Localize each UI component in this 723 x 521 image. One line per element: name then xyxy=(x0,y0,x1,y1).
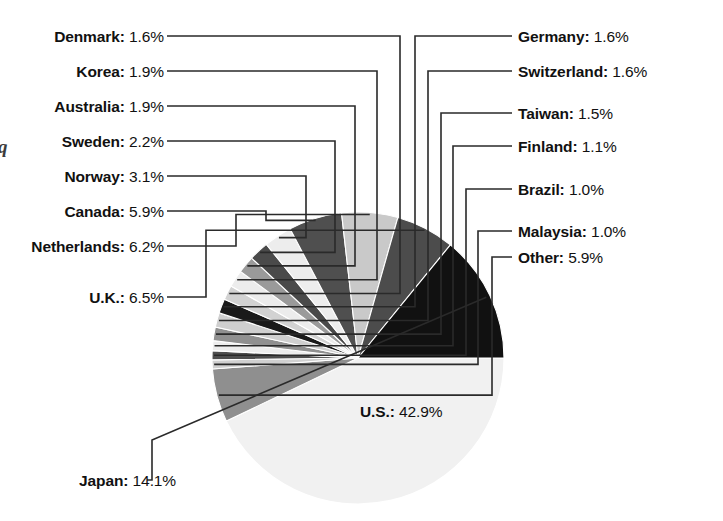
label-korea-value: 1.9% xyxy=(129,63,164,80)
label-taiwan-name: Taiwan xyxy=(518,105,569,122)
label-denmark-name: Denmark xyxy=(54,28,120,45)
label-norway: Norway: 3.1% xyxy=(64,169,164,185)
label-other: Other: 5.9% xyxy=(518,250,603,266)
label-germany-value: 1.6% xyxy=(594,28,629,45)
label-uk: U.K.: 6.5% xyxy=(89,290,164,306)
label-finland: Finland: 1.1% xyxy=(518,139,617,155)
label-australia-value: 1.9% xyxy=(129,98,164,115)
label-sweden-value: 2.2% xyxy=(129,133,164,150)
label-denmark-value: 1.6% xyxy=(129,28,164,45)
pie-slices-group xyxy=(212,212,504,504)
label-norway-value: 3.1% xyxy=(129,168,164,185)
label-other-name: Other xyxy=(518,249,559,266)
label-denmark: Denmark: 1.6% xyxy=(54,29,164,45)
label-australia-name: Australia xyxy=(54,98,119,115)
label-japan-name: Japan xyxy=(79,472,123,489)
label-other-value: 5.9% xyxy=(568,249,603,266)
label-netherlands-name: Netherlands xyxy=(31,238,119,255)
label-brazil: Brazil: 1.0% xyxy=(518,182,604,198)
label-norway-name: Norway xyxy=(64,168,119,185)
label-uk-name: U.K. xyxy=(89,289,120,306)
label-finland-value: 1.1% xyxy=(582,138,617,155)
label-germany: Germany: 1.6% xyxy=(518,29,629,45)
label-canada-value: 5.9% xyxy=(129,203,164,220)
label-sweden: Sweden: 2.2% xyxy=(62,134,164,150)
label-netherlands-value: 6.2% xyxy=(129,238,164,255)
label-canada: Canada: 5.9% xyxy=(64,204,164,220)
label-us-value: 42.9% xyxy=(399,403,442,420)
label-uk-value: 6.5% xyxy=(129,289,164,306)
label-canada-name: Canada xyxy=(64,203,119,220)
leader-line-canada xyxy=(167,211,316,220)
label-netherlands: Netherlands: 6.2% xyxy=(31,239,164,255)
label-korea: Korea: 1.9% xyxy=(76,64,164,80)
label-brazil-value: 1.0% xyxy=(569,181,604,198)
label-malaysia-name: Malaysia xyxy=(518,223,582,240)
label-sweden-name: Sweden xyxy=(62,133,120,150)
label-switzerland-value: 1.6% xyxy=(612,63,647,80)
label-us-name: U.S. xyxy=(360,403,390,420)
label-finland-name: Finland xyxy=(518,138,572,155)
label-malaysia-value: 1.0% xyxy=(591,223,626,240)
label-japan: Japan: 14.1% xyxy=(79,473,176,489)
label-brazil-name: Brazil xyxy=(518,181,560,198)
label-germany-name: Germany xyxy=(518,28,585,45)
label-taiwan: Taiwan: 1.5% xyxy=(518,106,613,122)
label-australia: Australia: 1.9% xyxy=(54,99,164,115)
label-switzerland-name: Switzerland xyxy=(518,63,603,80)
label-malaysia: Malaysia: 1.0% xyxy=(518,224,626,240)
pie-chart-figure: q Denmark: 1.6% Korea: 1.9% Australia: 1… xyxy=(0,0,723,521)
label-us: U.S.: 42.9% xyxy=(360,404,442,420)
label-korea-name: Korea xyxy=(76,63,119,80)
label-taiwan-value: 1.5% xyxy=(578,105,613,122)
label-japan-value: 14.1% xyxy=(133,472,176,489)
label-switzerland: Switzerland: 1.6% xyxy=(518,64,647,80)
